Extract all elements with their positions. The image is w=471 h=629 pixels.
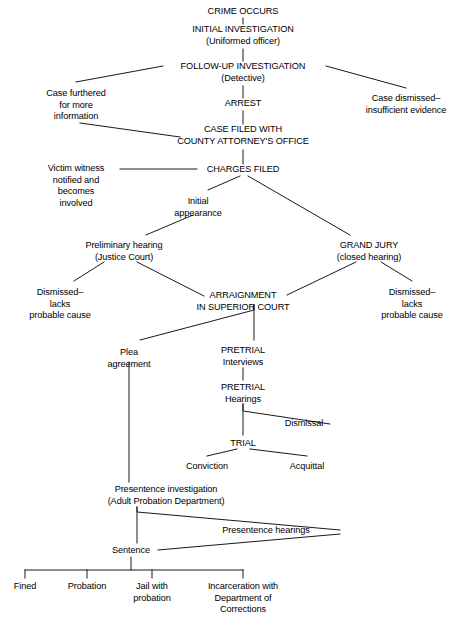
- flowchart-node-grand-jury: GRAND JURY(closed hearing): [337, 240, 401, 263]
- flowchart-node-fined-line-1: Fined: [14, 581, 36, 593]
- flowchart-node-dismissed-right-line-3: probable cause: [381, 310, 442, 322]
- flowchart-node-conviction-line-1: Conviction: [186, 461, 228, 473]
- flowchart-node-arrest-line-1: ARREST: [225, 98, 262, 110]
- flowchart-node-initial-investigation: INITIAL INVESTIGATION(Uniformed officer): [192, 24, 294, 47]
- flowchart-node-dismissed-right-line-1: Dismissed–: [381, 287, 442, 299]
- flowchart-edge-prelim-to-arraignment: [137, 262, 204, 296]
- flowchart-node-trial-line-1: TRIAL: [230, 438, 256, 450]
- flowchart-node-pretrial-interviews-line-1: PRETRIAL: [221, 345, 265, 357]
- flowchart-node-arrest: ARREST: [225, 98, 262, 110]
- flowchart-node-jail-with-probation-line-1: Jail with: [133, 581, 170, 593]
- flowchart-node-victim-witness-line-2: notified and: [48, 175, 105, 187]
- flowchart-edge-grand-jury-to-arraignment: [287, 262, 356, 295]
- flowchart-node-charges-filed-line-1: CHARGES FILED: [207, 164, 280, 176]
- flowchart-edge-followup-to-case-dismissed: [326, 66, 406, 88]
- flowchart-node-preliminary-hearing: Preliminary hearing(Justice Court): [85, 240, 162, 263]
- flowchart-node-pretrial-interviews: PRETRIALInterviews: [221, 345, 265, 368]
- flowchart-node-victim-witness-line-1: Victim witness: [48, 163, 105, 175]
- flowchart-node-case-dismissed-evidence-line-2: insufficient evidence: [366, 105, 446, 117]
- flowchart-node-preliminary-hearing-line-2: (Justice Court): [85, 252, 162, 264]
- flowchart-node-conviction: Conviction: [186, 461, 228, 473]
- flowchart-node-probation-line-1: Probation: [68, 581, 106, 593]
- flowchart-node-grand-jury-line-2: (closed hearing): [337, 252, 401, 264]
- flowchart-node-trial: TRIAL: [230, 438, 256, 450]
- flowchart-node-pretrial-interviews-line-2: Interviews: [221, 357, 265, 369]
- flowchart-node-presentence-investigation-line-2: (Adult Probation Department): [108, 496, 225, 508]
- flowchart-node-initial-investigation-line-1: INITIAL INVESTIGATION: [192, 24, 294, 36]
- flowchart-node-dismissed-left-line-3: probable cause: [29, 310, 90, 322]
- flowchart-node-case-furthered-line-1: Case furthered: [46, 88, 105, 100]
- flowchart-node-case-dismissed-evidence: Case dismissed–insufficient evidence: [366, 93, 446, 116]
- flowchart-node-initial-appearance: Initialappearance: [174, 196, 222, 219]
- flowchart-node-plea-agreement-line-2: agreement: [107, 359, 150, 371]
- flowchart-node-dismissal-line-1: Dismissal: [285, 418, 323, 430]
- flowchart-edge-prelim-to-dismissed-left: [74, 262, 104, 281]
- flowchart-node-acquittal-line-1: Acquittal: [290, 461, 324, 473]
- flowchart-node-probation: Probation: [68, 581, 106, 593]
- flowchart-edge-charges-to-grand-jury: [248, 176, 350, 235]
- flowchart-node-initial-investigation-line-2: (Uniformed officer): [192, 36, 294, 48]
- flowchart-node-preliminary-hearing-line-1: Preliminary hearing: [85, 240, 162, 252]
- criminal-justice-flowchart: CRIME OCCURSINITIAL INVESTIGATION(Unifor…: [0, 0, 471, 629]
- flowchart-edge-followup-to-case-furthered: [76, 66, 163, 82]
- flowchart-node-plea-agreement: Pleaagreement: [107, 347, 150, 370]
- flowchart-node-presentence-investigation-line-1: Presentence investigation: [108, 484, 225, 496]
- flowchart-node-victim-witness-line-3: becomes: [48, 186, 105, 198]
- flowchart-node-dismissed-left-line-2: lacks: [29, 299, 90, 311]
- flowchart-node-dismissed-right: Dismissed–lacksprobable cause: [381, 287, 442, 322]
- flowchart-edge-trial-to-acquittal: [250, 449, 307, 456]
- flowchart-node-pretrial-hearings-line-1: PRETRIAL: [221, 382, 265, 394]
- flowchart-node-dismissed-left-line-1: Dismissed–: [29, 287, 90, 299]
- flowchart-node-presentence-investigation: Presentence investigation(Adult Probatio…: [108, 484, 225, 507]
- flowchart-node-fined: Fined: [14, 581, 36, 593]
- flowchart-node-dismissal: Dismissal: [285, 418, 323, 430]
- flowchart-node-dismissed-left: Dismissed–lacksprobable cause: [29, 287, 90, 322]
- flowchart-edge-trial-to-conviction: [207, 449, 237, 456]
- flowchart-node-follow-up-investigation: FOLLOW-UP INVESTIGATION(Detective): [181, 61, 306, 84]
- flowchart-node-incarceration-doc-line-2: Department of: [208, 593, 278, 605]
- flowchart-node-case-furthered-line-3: information: [46, 111, 105, 123]
- flowchart-node-charges-filed: CHARGES FILED: [207, 164, 280, 176]
- flowchart-node-jail-with-probation-line-2: probation: [133, 593, 170, 605]
- flowchart-node-victim-witness: Victim witnessnotified andbecomesinvolve…: [48, 163, 105, 209]
- flowchart-node-arraignment-line-1: ARRAIGNMENT: [196, 290, 289, 302]
- flowchart-node-case-furthered-line-2: for more: [46, 100, 105, 112]
- flowchart-edge-case-furthered-to-case-filed: [80, 123, 180, 137]
- flowchart-node-follow-up-investigation-line-1: FOLLOW-UP INVESTIGATION: [181, 61, 306, 73]
- flowchart-node-initial-appearance-line-1: Initial: [174, 196, 222, 208]
- flowchart-node-arraignment-line-2: IN SUPERIOR COURT: [196, 302, 289, 314]
- flowchart-node-presentence-hearings: Presentence hearings: [222, 525, 309, 537]
- flowchart-node-plea-agreement-line-1: Plea: [107, 347, 150, 359]
- flowchart-node-case-furthered: Case furtheredfor moreinformation: [46, 88, 105, 123]
- flowchart-node-arraignment: ARRAIGNMENTIN SUPERIOR COURT: [196, 290, 289, 313]
- flowchart-node-acquittal: Acquittal: [290, 461, 324, 473]
- flowchart-node-initial-appearance-line-2: appearance: [174, 208, 222, 220]
- flowchart-node-victim-witness-line-4: involved: [48, 198, 105, 210]
- flowchart-edge-charges-to-initial-appearance: [208, 176, 240, 190]
- flowchart-node-case-filed-line-1: CASE FILED WITH: [177, 124, 309, 136]
- flowchart-node-case-filed-line-2: COUNTY ATTORNEY'S OFFICE: [177, 136, 309, 148]
- flowchart-node-incarceration-doc-line-1: Incarceration with: [208, 581, 278, 593]
- flowchart-node-incarceration-doc-line-3: Corrections: [208, 604, 278, 616]
- flowchart-node-presentence-hearings-line-1: Presentence hearings: [222, 525, 309, 537]
- flowchart-node-sentence-line-1: Sentence: [112, 545, 150, 557]
- flowchart-node-follow-up-investigation-line-2: (Detective): [181, 73, 306, 85]
- flowchart-node-case-filed: CASE FILED WITHCOUNTY ATTORNEY'S OFFICE: [177, 124, 309, 147]
- flowchart-node-incarceration-doc: Incarceration withDepartment ofCorrectio…: [208, 581, 278, 616]
- flowchart-node-pretrial-hearings-line-2: Hearings: [221, 394, 265, 406]
- flowchart-node-pretrial-hearings: PRETRIALHearings: [221, 382, 265, 405]
- flowchart-node-dismissed-right-line-2: lacks: [381, 299, 442, 311]
- flowchart-node-grand-jury-line-1: GRAND JURY: [337, 240, 401, 252]
- flowchart-node-sentence: Sentence: [112, 545, 150, 557]
- flowchart-node-jail-with-probation: Jail withprobation: [133, 581, 170, 604]
- flowchart-node-case-dismissed-evidence-line-1: Case dismissed–: [366, 93, 446, 105]
- flowchart-node-crime-occurs-line-1: CRIME OCCURS: [208, 6, 279, 18]
- flowchart-node-crime-occurs: CRIME OCCURS: [208, 6, 279, 18]
- flowchart-edge-grand-jury-to-dismissed-right: [381, 262, 412, 281]
